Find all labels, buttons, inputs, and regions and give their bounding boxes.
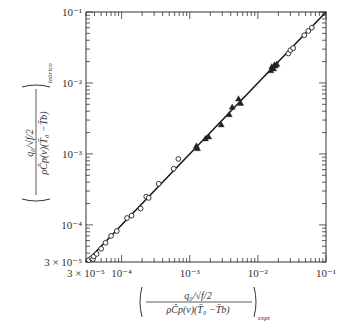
y-tick-label: 10⁻³ [62,148,83,160]
data-point-circle [99,246,104,251]
x-label-denominator: ρĈp(v)(T̄₀ −T̄b) [165,304,230,316]
y-tick-label: 10⁻¹ [62,6,82,18]
x-axis-label: q₀/√f/2 ρĈp(v)(T̄₀ −T̄b) expt [140,287,271,322]
x-tick-label: 10⁻³ [180,267,201,279]
data-point-circle [176,157,181,162]
data-point-circle [146,196,151,201]
data-point-circle [114,229,119,234]
y-tick-label: 3 × 10⁻⁵ [44,256,82,268]
x-label-subscript: expt [258,314,271,322]
data-point-circle [302,33,307,38]
x-tick-label: 10⁻⁴ [111,267,132,279]
x-label-numerator: q₀/√f/2 [184,290,211,301]
data-point-circle [125,216,130,221]
x-tick-label: 10⁻¹ [316,267,336,279]
scatter-chart: 3 × 10⁻⁵3 × 10⁻⁵10⁻⁴10⁻⁴10⁻³10⁻³10⁻²10⁻²… [0,0,340,329]
data-point-circle [129,213,134,218]
x-tick-label: 3 × 10⁻⁵ [67,267,105,279]
data-point-circle [156,181,161,186]
data-point-circle [94,252,99,257]
data-point-circle [291,46,296,51]
y-label-numerator: q₀/√f/2 [24,129,35,156]
y-tick-label: 10⁻⁴ [61,219,82,231]
data-point-circle [109,233,114,238]
data-point-circle [138,206,143,211]
data-point-circle [309,25,314,30]
y-tick-label: 10⁻² [62,77,83,89]
data-point-circle [103,240,108,245]
data-point-circle [171,166,176,171]
y-label-denominator: ρĈp(v)(T̄₀ −T̄b) [38,111,50,176]
y-label-subscript: teórico [46,63,54,83]
x-tick-label: 10⁻² [248,267,269,279]
y-axis-label: q₀/√f/2 ρĈp(v)(T̄₀ −T̄b) teórico [22,63,54,201]
